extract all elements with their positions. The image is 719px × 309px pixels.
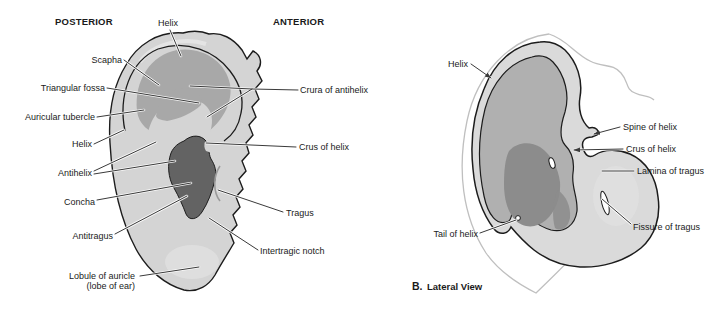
label-helix-top: Helix (150, 18, 186, 28)
heading-posterior: POSTERIOR (55, 17, 113, 27)
label-concha: Concha (45, 197, 95, 207)
label-helix-b: Helix (428, 59, 468, 69)
ear-a-illustration (110, 31, 262, 290)
label-antihelix: Antihelix (42, 168, 92, 178)
label-lobule: Lobule of auricle (lobe of ear) (55, 271, 135, 291)
label-crus-of-helix-a: Crus of helix (299, 142, 349, 152)
lamina-highlight (593, 166, 639, 226)
label-intertragic-notch: Intertragic notch (260, 246, 325, 256)
label-tragus: Tragus (286, 208, 314, 218)
figure-b-caption-letter: B. (412, 280, 423, 292)
label-helix-left: Helix (52, 139, 92, 149)
label-scapha: Scapha (62, 55, 122, 65)
label-crus-of-helix-b: Crus of helix (626, 144, 676, 154)
ear-anatomy-figure: POSTERIOR ANTERIOR Helix Scapha Triangul… (0, 0, 719, 309)
lobule-highlight (165, 245, 219, 279)
label-lobule-line1: Lobule of auricle (55, 271, 135, 281)
label-lamina-of-tragus: Lamina of tragus (637, 166, 704, 176)
leader-helix-b (471, 64, 491, 78)
figure-b-caption: B. Lateral View (412, 276, 482, 294)
label-auricular-tubercle: Auricular tubercle (8, 112, 95, 122)
label-lobule-line2: (lobe of ear) (55, 281, 135, 291)
heading-anterior: ANTERIOR (273, 17, 324, 27)
label-tail-of-helix: Tail of helix (420, 229, 478, 239)
ear-b-illustration (462, 34, 659, 293)
label-antitragus: Antitragus (53, 231, 113, 241)
label-fissure-of-tragus: Fissure of tragus (633, 222, 700, 232)
label-spine-of-helix: Spine of helix (623, 122, 677, 132)
figure-b-caption-text: Lateral View (427, 281, 482, 292)
label-triangular-fossa: Triangular fossa (25, 83, 105, 93)
label-crura-of-antihelix: Crura of antihelix (300, 85, 368, 95)
figure-artwork (0, 0, 719, 309)
